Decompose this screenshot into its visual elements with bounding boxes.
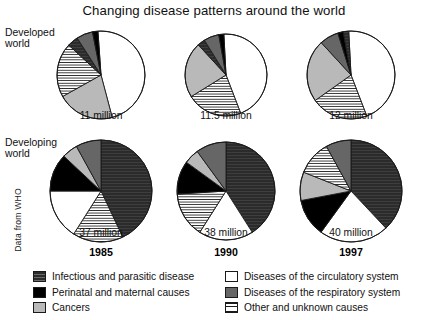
year-label-1990: 1990 (167, 246, 285, 258)
legend-label-circulatory: Diseases of the circulatory system (244, 271, 399, 282)
year-label-1985: 1985 (40, 246, 162, 258)
pie-total-label-1990: 11.5 million (175, 110, 277, 121)
legend-swatch-infectious (33, 271, 46, 282)
pie-chart-figure: Changing disease patterns around the wor… (0, 0, 428, 320)
legend-swatch-other (225, 302, 238, 313)
legend-item-perinatal[interactable]: Perinatal and maternal causes (33, 285, 194, 300)
source-note: Data from WHO (13, 185, 23, 255)
legend-item-other[interactable]: Other and unknown causes (225, 300, 400, 315)
page-title: Changing disease patterns around the wor… (0, 3, 428, 18)
year-label-1997: 1997 (290, 246, 412, 258)
pie-total-label-1990: 38 million (167, 227, 285, 238)
legend-label-cancers: Cancers (52, 302, 90, 313)
legend-item-circulatory[interactable]: Diseases of the circulatory system (225, 269, 400, 284)
legend-swatch-circulatory (225, 271, 238, 282)
legend-item-respiratory[interactable]: Diseases of the respiratory system (225, 285, 400, 300)
legend-label-respiratory: Diseases of the respiratory system (244, 287, 400, 298)
legend-column-right: Diseases of the circulatory systemDiseas… (225, 269, 400, 316)
legend-swatch-cancers (33, 302, 46, 313)
legend-swatch-respiratory (225, 287, 238, 298)
pie-total-label-1997: 40 million (290, 227, 412, 238)
legend: Infectious and parasitic diseasePerinata… (33, 269, 425, 317)
legend-swatch-perinatal (33, 287, 46, 298)
legend-label-other: Other and unknown causes (244, 302, 368, 313)
legend-label-perinatal: Perinatal and maternal causes (52, 287, 190, 298)
legend-item-cancers[interactable]: Cancers (33, 300, 194, 315)
pie-total-label-1997: 12 million (297, 110, 405, 121)
pie-total-label-1985: 37 million (40, 227, 162, 238)
legend-column-left: Infectious and parasitic diseasePerinata… (33, 269, 194, 316)
pie-total-label-1985: 11 million (47, 110, 155, 121)
legend-label-infectious: Infectious and parasitic disease (52, 271, 194, 282)
legend-item-infectious[interactable]: Infectious and parasitic disease (33, 269, 194, 284)
